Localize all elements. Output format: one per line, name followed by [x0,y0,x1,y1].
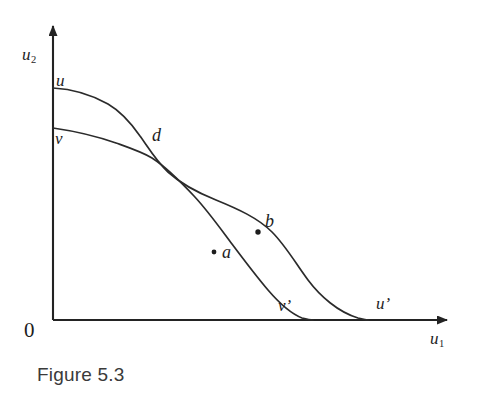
label-v: v [55,130,63,147]
x-axis-label: u1 [430,330,444,350]
point-b-dot [255,229,260,234]
label-u: u [56,72,65,89]
point-a-dot [212,250,217,255]
origin-label: 0 [24,320,35,341]
figure-caption: Figure 5.3 [37,364,125,386]
utility-possibility-frontier-plot [0,0,482,401]
curve-v-frontier [53,128,313,320]
label-v-prime: v’ [278,297,291,314]
figure-5-3: u2 u1 0 u v d b a v’ u’ Figure 5.3 [0,0,482,401]
y-axis-label: u2 [22,46,36,66]
label-b: b [265,212,274,230]
label-u-prime: u’ [376,295,390,312]
curve-u-frontier [53,88,368,320]
label-d: d [152,126,161,144]
label-a: a [222,243,231,261]
